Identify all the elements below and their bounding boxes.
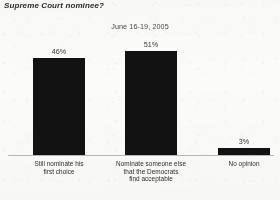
tick-label-line: Still nominate his [18,160,100,168]
bar-chart-plot-area: 46% 51% 3% Still nominate his first choi… [0,0,280,200]
x-tick-label-nominate-someone-else: Nominate someone else that the Democrats… [100,160,202,183]
chart-page: Supreme Court nominee? June 16-19, 2005 … [0,0,280,200]
bar-rect[interactable] [218,148,270,155]
tick-label-line: Nominate someone else [100,160,202,168]
bar-value-label: 51% [125,40,177,49]
bar-group-no-opinion: 3% [218,148,270,155]
bar-value-label: 46% [33,47,85,56]
bar-group-nominate-someone-else: 51% [125,51,177,155]
tick-label-line: first choice [18,168,100,176]
x-axis-baseline [8,155,274,156]
bar-value-label: 3% [218,137,270,146]
x-tick-label-still-nominate: Still nominate his first choice [18,160,100,175]
tick-label-line: find acceptable [100,175,202,183]
bar-rect[interactable] [33,58,85,155]
bar-group-still-nominate: 46% [33,58,85,155]
x-tick-label-no-opinion: No opinion [208,160,280,168]
bar-rect[interactable] [125,51,177,155]
tick-label-line: No opinion [208,160,280,168]
tick-label-line: that the Democrats [100,168,202,176]
